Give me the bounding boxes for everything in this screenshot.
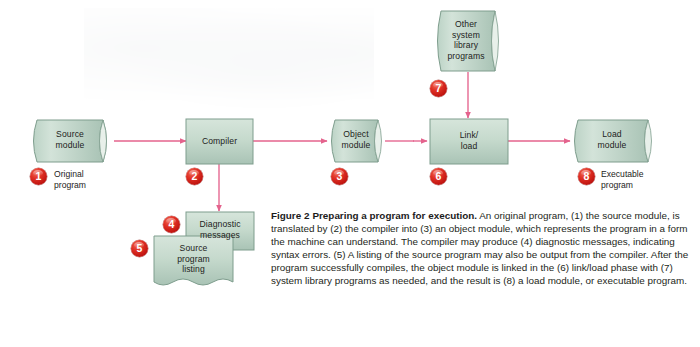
bullet-marker-4: 4 (163, 216, 180, 233)
shape-load-module (575, 120, 652, 162)
bullet-marker-2: 2 (186, 168, 203, 185)
label-source-module: Source module (37, 129, 103, 150)
label-source-program-listing: Source program listing (154, 243, 233, 275)
bullet-marker-8: 8 (578, 168, 595, 185)
label-other-system-library: Other system library programs (437, 19, 495, 61)
shape-compiler (186, 119, 253, 164)
shape-object-module (332, 120, 382, 162)
bullet-marker-6: 6 (430, 168, 447, 185)
figure-caption: Figure 2Preparing a program for executio… (271, 209, 695, 288)
label-compiler: Compiler (186, 136, 253, 147)
bullet-caption-1: Original program (54, 169, 114, 190)
shape-diagnostic-messages (186, 212, 254, 250)
bullet-marker-5: 5 (131, 240, 148, 257)
bullet-marker-1: 1 (30, 168, 47, 185)
bullet-marker-7: 7 (430, 80, 447, 97)
bullet-caption-8: Executable program (601, 169, 681, 190)
shape-link-load (430, 119, 508, 164)
label-object-module: Object module (331, 129, 381, 150)
figure-container: Source module Compiler Object module Lin… (0, 0, 700, 347)
label-load-module: Load module (578, 129, 646, 150)
shape-other-system-library (438, 11, 499, 71)
figure-caption-body: An original program, (1) the source modu… (271, 210, 688, 286)
shape-source-module (34, 120, 107, 162)
figure-title: Preparing a program for execution. (312, 210, 477, 221)
figure-number: Figure 2 (271, 210, 309, 221)
page-watermark (84, 8, 374, 108)
bullet-marker-3: 3 (331, 168, 348, 185)
shape-source-program-listing (154, 236, 233, 285)
label-diagnostic-messages: Diagnostic messages (186, 219, 254, 240)
label-link-load: Link/ load (430, 130, 508, 151)
